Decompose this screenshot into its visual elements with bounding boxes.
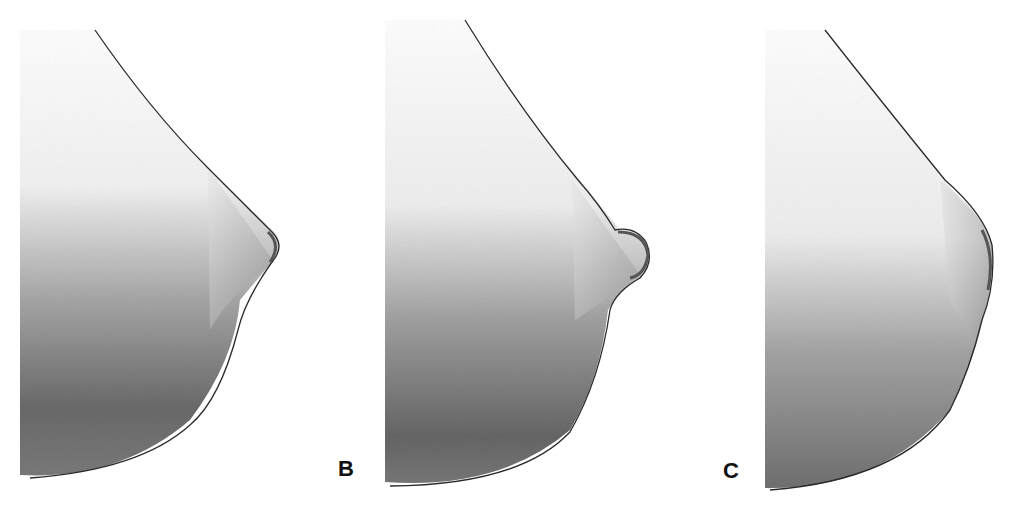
- panel-c-drawing: [765, 30, 993, 490]
- drawing-canvas: [0, 0, 1024, 505]
- panel-a-drawing: [20, 30, 279, 478]
- panel-label-b: B: [338, 456, 354, 482]
- panel-label-c: C: [723, 458, 739, 484]
- panel-b-drawing: [385, 20, 650, 486]
- illustration-figure: B C: [0, 0, 1024, 505]
